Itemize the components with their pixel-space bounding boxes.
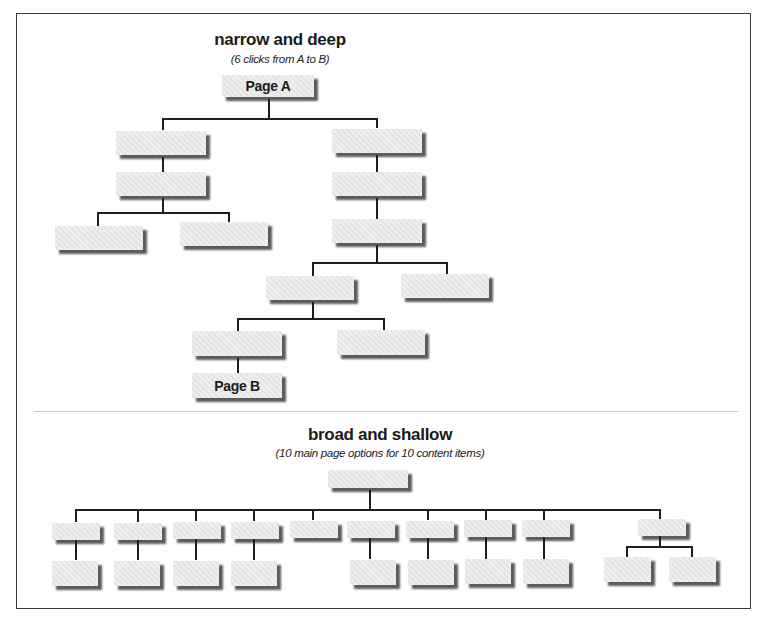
connector — [162, 157, 164, 173]
connector — [376, 118, 378, 128]
section-divider — [34, 411, 738, 412]
connector — [312, 262, 314, 276]
connector — [228, 212, 230, 222]
option-node — [290, 521, 338, 538]
tree-node — [332, 172, 422, 196]
narrow-title: narrow and deep — [180, 30, 380, 50]
content-node — [114, 561, 160, 586]
page-a-label: Page A — [245, 78, 290, 94]
connector — [162, 118, 164, 130]
option-node — [464, 520, 512, 537]
connector — [543, 509, 545, 520]
option-node — [638, 519, 686, 536]
connector — [312, 262, 448, 264]
option-node — [406, 521, 454, 538]
content-node — [350, 560, 396, 585]
connector — [446, 262, 448, 274]
content-node — [173, 561, 219, 586]
connector — [376, 198, 378, 219]
broad-title: broad and shallow — [260, 425, 500, 445]
narrow-subtitle: (6 clicks from A to B) — [180, 53, 380, 65]
tree-node — [180, 222, 268, 246]
tree-node — [332, 219, 422, 243]
content-node — [52, 561, 98, 586]
connector — [237, 318, 239, 332]
connector — [485, 537, 487, 559]
connector — [376, 155, 378, 172]
connector — [369, 538, 371, 559]
page-b-node: Page B — [192, 373, 282, 398]
tree-node — [116, 172, 206, 196]
connector — [369, 490, 371, 510]
main-page-node — [328, 470, 408, 488]
tree-node — [337, 330, 425, 355]
connector — [195, 539, 197, 560]
broad-subtitle: (10 main page options for 10 content ite… — [230, 447, 530, 459]
connector — [691, 546, 693, 557]
tree-node — [266, 276, 354, 300]
tree-node — [116, 131, 206, 155]
connector — [75, 540, 77, 560]
connector — [543, 537, 545, 559]
connector — [376, 245, 378, 263]
connector — [383, 318, 385, 330]
connector — [253, 539, 255, 560]
connector — [97, 212, 230, 214]
tree-node — [55, 226, 143, 250]
connector — [626, 546, 693, 548]
connector — [237, 358, 239, 373]
connector — [427, 509, 429, 520]
page-a-node: Page A — [222, 75, 314, 97]
connector — [162, 198, 164, 213]
option-node — [231, 522, 279, 539]
connector — [97, 212, 99, 226]
connector — [659, 509, 661, 519]
connector — [75, 509, 661, 511]
tree-node — [192, 331, 282, 356]
connector — [485, 509, 487, 520]
option-node — [347, 521, 395, 538]
connector — [312, 302, 314, 319]
connector — [75, 509, 77, 522]
option-node — [522, 520, 570, 537]
content-node — [408, 560, 454, 585]
connector — [137, 540, 139, 560]
content-node — [669, 557, 716, 582]
content-node — [231, 561, 277, 586]
connector — [162, 118, 378, 120]
page-b-label: Page B — [214, 378, 260, 394]
connector — [195, 509, 197, 521]
tree-node — [332, 129, 422, 153]
content-node — [604, 557, 651, 582]
option-node — [173, 522, 221, 539]
content-node — [523, 559, 569, 584]
connector — [427, 538, 429, 559]
tree-node — [401, 274, 489, 298]
connector — [253, 509, 255, 521]
connector — [237, 318, 385, 320]
connector — [137, 509, 139, 522]
content-node — [465, 559, 511, 584]
connector — [626, 546, 628, 557]
connector — [312, 509, 314, 520]
option-node — [52, 523, 100, 540]
option-node — [114, 523, 162, 540]
connector — [268, 99, 270, 119]
